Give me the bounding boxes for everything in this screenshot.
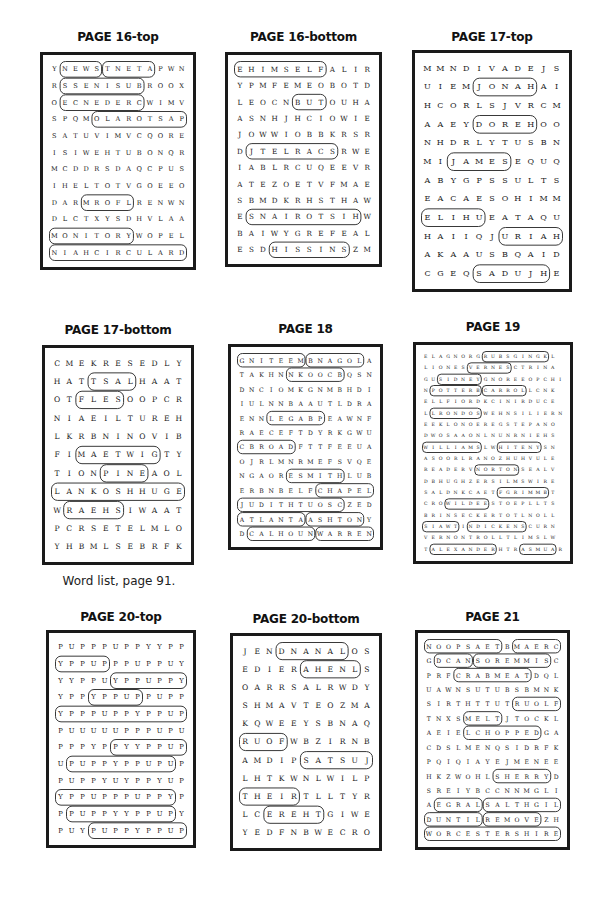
grid-letter: L	[112, 409, 124, 427]
grid-letter: T	[315, 209, 327, 225]
grid-letter: H	[312, 660, 324, 678]
grid-letter: E	[338, 225, 350, 241]
grid-letter: E	[502, 668, 512, 682]
grid-letter: L	[257, 512, 267, 526]
grid-letter: M	[502, 812, 512, 826]
grid-letter: L	[542, 453, 549, 464]
grid-letter: A	[512, 668, 522, 682]
grid-letter: A	[161, 501, 173, 519]
grid-letter: O	[280, 176, 292, 192]
grid-letter: D	[444, 487, 451, 498]
grid-letter: U	[55, 756, 66, 773]
grid-letter: R	[63, 501, 75, 519]
grid-letter: S	[534, 532, 541, 543]
grid-letter: P	[176, 772, 187, 789]
grid-letter: E	[489, 419, 496, 430]
grid-letter: L	[473, 798, 483, 812]
grid-letter: G	[532, 783, 542, 797]
grid-letter: W	[269, 225, 281, 241]
grid-letter: D	[263, 824, 275, 842]
grid-letter: E	[482, 498, 489, 509]
grid-letter: O	[124, 391, 136, 409]
grid-letter: M	[550, 96, 563, 115]
grid-letter: U	[444, 476, 451, 487]
grid-letter: R	[335, 527, 345, 541]
grid-letter: K	[437, 419, 444, 430]
grid-letter: K	[327, 127, 339, 143]
grid-letter: R	[511, 227, 524, 246]
grid-letter: P	[110, 656, 121, 673]
grid-letter: B	[434, 171, 447, 190]
grid-letter: L	[549, 510, 556, 521]
grid-letter: D	[70, 161, 81, 178]
grid-letter: J	[246, 143, 258, 159]
grid-letter: E	[474, 498, 481, 509]
grid-letter: S	[49, 128, 60, 145]
grid-letter: F	[113, 194, 124, 211]
grid-letter: G	[474, 351, 481, 362]
grid-letter: T	[315, 94, 327, 110]
grid-letter: M	[434, 59, 447, 78]
grid-letter: E	[519, 442, 526, 453]
grid-letter: U	[473, 208, 486, 227]
grid-letter: C	[63, 519, 75, 537]
grid-letter: N	[444, 362, 451, 373]
grid-letter: I	[444, 754, 454, 768]
grid-letter: A	[257, 527, 267, 541]
grid-letter: O	[136, 427, 148, 445]
grid-letter: P	[453, 639, 463, 653]
grid-letter: E	[263, 787, 275, 805]
grid-letter: C	[492, 783, 502, 797]
grid-letter: A	[269, 209, 281, 225]
grid-letter: N	[459, 419, 466, 430]
grid-letter: Y	[463, 783, 473, 797]
grid-letter: V	[176, 94, 187, 111]
grid-letter: O	[467, 430, 474, 441]
grid-letter: O	[266, 440, 276, 454]
grid-letter: U	[542, 544, 549, 555]
grid-letter: R	[444, 697, 454, 711]
grid-letter: C	[542, 396, 549, 407]
grid-letter: L	[102, 111, 113, 128]
grid-letter: P	[121, 822, 132, 839]
grid-letter: C	[315, 143, 327, 159]
grid-letter: U	[354, 440, 364, 454]
grid-letter: E	[364, 454, 374, 468]
grid-letter: B	[542, 487, 549, 498]
grid-letter: L	[257, 396, 267, 410]
grid-letter: U	[534, 396, 541, 407]
grid-letter: S	[512, 682, 522, 696]
grid-letter: V	[467, 362, 474, 373]
grid-letter: K	[434, 769, 444, 783]
grid-letter: P	[110, 689, 121, 706]
grid-letter: A	[145, 61, 156, 78]
grid-letter: U	[123, 78, 134, 95]
grid-letter: D	[527, 396, 534, 407]
grid-letter: E	[361, 806, 373, 824]
grid-letter: A	[551, 726, 561, 740]
grid-letter: A	[429, 544, 436, 555]
grid-letter: A	[63, 483, 75, 501]
grid-letter: E	[327, 159, 339, 175]
grid-letter: P	[176, 789, 187, 806]
grid-letter: U	[421, 78, 434, 97]
grid-letter: S	[155, 111, 166, 128]
grid-letter: A	[335, 411, 345, 425]
grid-letter: E	[541, 754, 551, 768]
grid-letter: E	[502, 653, 512, 667]
grid-letter: Z	[350, 242, 362, 258]
grid-letter: A	[246, 225, 258, 241]
grid-letter: E	[257, 425, 267, 439]
grid-letter: S	[246, 242, 258, 258]
grid-letter: E	[492, 754, 502, 768]
grid-letter: G	[286, 411, 296, 425]
grid-letter: U	[473, 246, 486, 265]
grid-letter: T	[239, 787, 251, 805]
grid-letter: N	[49, 244, 60, 261]
grid-letter: T	[327, 192, 339, 208]
grid-letter: L	[239, 806, 251, 824]
grid-letter: A	[113, 111, 124, 128]
grid-letter	[557, 430, 564, 441]
grid-letter: C	[489, 396, 496, 407]
grid-letter: I	[350, 110, 362, 126]
